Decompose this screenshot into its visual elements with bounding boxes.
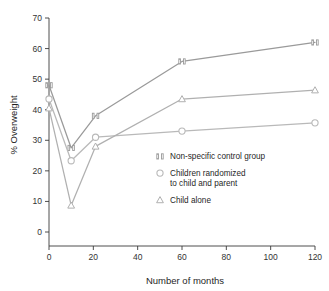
x-tick-label: 120 xyxy=(308,252,322,262)
data-point-circle-2-2 xyxy=(92,134,98,140)
x-tick-label: 100 xyxy=(264,252,278,262)
data-point-triangle-legend-2 xyxy=(157,197,164,203)
y-tick-label: 50 xyxy=(33,74,43,84)
x-tick-label: 0 xyxy=(47,252,52,262)
data-point-circle-2-4 xyxy=(312,120,318,126)
legend-label-1-0: Children randomized xyxy=(170,169,246,178)
data-point-bar-left-1-4 xyxy=(312,40,314,45)
y-tick-label: 10 xyxy=(33,196,43,206)
data-point-circle-2-0 xyxy=(46,96,52,102)
series-3 xyxy=(46,87,319,208)
x-tick-label: 40 xyxy=(133,252,143,262)
y-tick-label: 70 xyxy=(33,13,43,23)
data-point-bar-left-1-0 xyxy=(46,83,48,88)
x-axis-title: Number of months xyxy=(146,275,224,286)
data-point-triangle-3-2 xyxy=(92,143,99,149)
data-point-bar-right-1-1 xyxy=(73,145,75,150)
data-point-bar-left-1-1 xyxy=(68,145,70,150)
data-point-bar-left-1-2 xyxy=(92,113,94,118)
y-axis-title: % Overweight xyxy=(8,95,19,154)
x-tick-label: 60 xyxy=(177,252,187,262)
line-chart: 010203040506070 020406080100120 Non-spec… xyxy=(0,0,329,291)
chart-container: 010203040506070 020406080100120 Non-spec… xyxy=(0,0,329,291)
data-point-circle-legend-1 xyxy=(157,170,163,176)
y-axis-ticks: 010203040506070 xyxy=(33,13,49,237)
data-point-bar-left-1-3 xyxy=(179,59,181,64)
legend-label-1-1: to child and parent xyxy=(170,179,238,188)
x-tick-label: 20 xyxy=(89,252,99,262)
y-tick-label: 0 xyxy=(37,227,42,237)
data-point-bar-right-1-2 xyxy=(97,113,99,118)
data-point-bar-right-1-0 xyxy=(51,83,53,88)
legend-label-2-0: Child alone xyxy=(170,196,211,205)
data-point-bar-right-1-4 xyxy=(317,40,319,45)
y-tick-label: 40 xyxy=(33,105,43,115)
data-point-bar-left-legend-0 xyxy=(157,154,159,159)
y-tick-label: 20 xyxy=(33,166,43,176)
data-point-bar-right-1-3 xyxy=(184,59,186,64)
data-point-circle-2-1 xyxy=(68,158,74,164)
y-tick-label: 60 xyxy=(33,44,43,54)
data-point-triangle-3-1 xyxy=(68,202,75,208)
y-tick-label: 30 xyxy=(33,135,43,145)
x-axis-ticks: 020406080100120 xyxy=(47,246,323,262)
data-point-circle-2-3 xyxy=(179,128,185,134)
chart-legend: Non-specific control groupChildren rando… xyxy=(157,152,266,205)
series-line-3 xyxy=(49,90,315,205)
legend-label-0-0: Non-specific control group xyxy=(170,152,266,161)
x-tick-label: 80 xyxy=(222,252,232,262)
data-point-bar-right-legend-0 xyxy=(162,154,164,159)
